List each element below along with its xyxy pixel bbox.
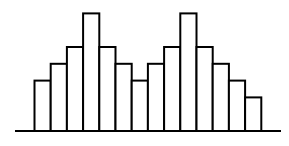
bar-14 — [245, 97, 261, 131]
bar-10 — [180, 13, 196, 131]
bar-12 — [213, 64, 229, 131]
bar-4 — [83, 13, 99, 131]
bars-group — [35, 13, 262, 131]
histogram-chart — [0, 0, 289, 146]
bar-9 — [164, 47, 180, 131]
bar-1 — [35, 81, 51, 131]
bar-11 — [197, 47, 213, 131]
bar-2 — [51, 64, 67, 131]
bar-13 — [229, 81, 245, 131]
bar-5 — [99, 47, 115, 131]
bar-3 — [67, 47, 83, 131]
bar-6 — [116, 64, 132, 131]
bar-8 — [148, 64, 164, 131]
bar-7 — [132, 81, 148, 131]
